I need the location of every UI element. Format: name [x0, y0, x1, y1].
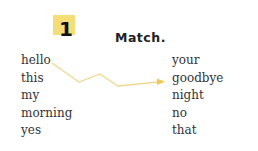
- match-arrow-icon: [0, 0, 258, 151]
